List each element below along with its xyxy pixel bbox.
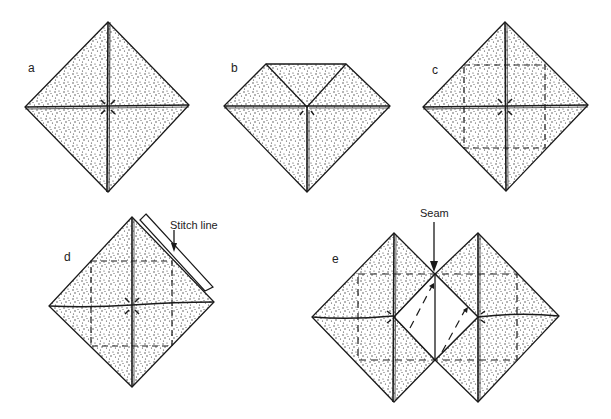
panel-label-e: e xyxy=(332,253,339,265)
panel-label-b: b xyxy=(231,62,238,74)
stitch-line-annotation: Stitch line xyxy=(170,220,218,231)
panel-c xyxy=(423,22,588,191)
panel-d xyxy=(49,214,214,387)
folding-diagram xyxy=(0,0,611,419)
seam-annotation: Seam xyxy=(420,208,449,219)
panel-b xyxy=(224,64,390,192)
panel-e xyxy=(312,222,559,402)
panel-label-a: a xyxy=(28,62,35,74)
panel-a xyxy=(25,22,189,192)
panel-label-d: d xyxy=(64,251,71,263)
panel-label-c: c xyxy=(432,64,438,76)
